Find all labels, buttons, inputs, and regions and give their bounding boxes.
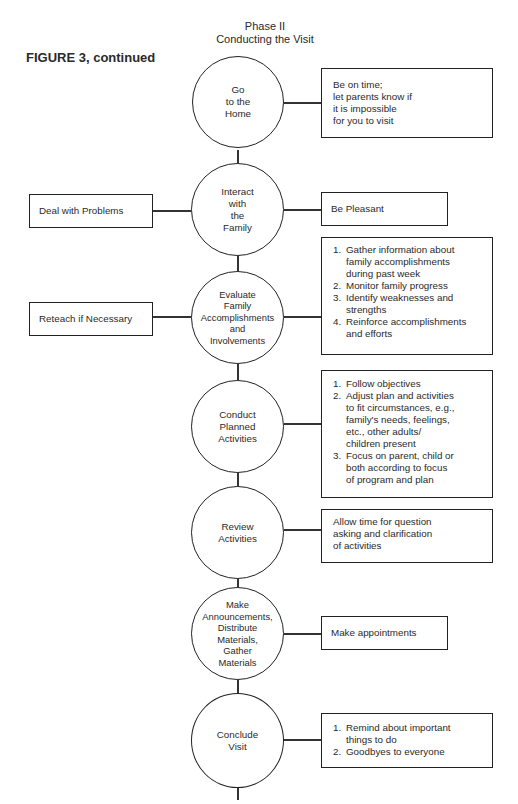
list-item: 3.Focus on parent, child or both accordi… (333, 450, 484, 486)
connector-right (284, 739, 322, 741)
connector-right (284, 209, 322, 211)
note-list: 1.Follow objectives 2.Adjust plan and ac… (333, 378, 484, 486)
phase-title: Phase II (200, 20, 330, 33)
connector-right (284, 423, 322, 425)
note-text: Make appointments (331, 627, 417, 639)
step-label: Conduct Planned Activities (218, 409, 257, 445)
note-box-list: 1.Remind about important things to do 2.… (321, 713, 493, 768)
step-label: Go to the Home (225, 84, 251, 120)
phase-heading: Phase II Conducting the Visit (200, 20, 330, 46)
step-make-announcements: Make Announcements, Distribute Materials… (191, 587, 284, 680)
step-label: Make Announcements, Distribute Materials… (202, 599, 272, 668)
list-item: 1.Follow objectives (333, 378, 484, 390)
figure-label: FIGURE 3, continued (26, 50, 155, 65)
list-item: 4.Reinforce accomplishments and efforts (333, 316, 484, 340)
note-text: Be on time; let parents know if it is im… (333, 79, 484, 127)
step-label: Interact with the Family (221, 186, 254, 234)
list-item: 2.Monitor family progress (333, 280, 484, 292)
list-item: 3.Identify weaknesses and strengths (333, 292, 484, 316)
note-box: Be on time; let parents know if it is im… (321, 68, 493, 138)
note-list: 1.Remind about important things to do 2.… (333, 722, 484, 758)
step-review-activities: Review Activities (191, 486, 284, 579)
connector-right (284, 633, 322, 635)
phase-subtitle: Conducting the Visit (200, 33, 330, 46)
note-text: Be Pleasant (331, 203, 384, 215)
left-note-box: Reteach if Necessary (29, 302, 153, 336)
note-box-list: 1.Follow objectives 2.Adjust plan and ac… (321, 370, 493, 498)
step-interact-family: Interact with the Family (191, 163, 284, 256)
note-box: Make appointments (321, 616, 448, 650)
note-list: 1.Gather information about family accomp… (333, 244, 484, 340)
connector-left (153, 210, 191, 212)
list-item: 1.Gather information about family accomp… (333, 244, 484, 280)
step-label: Evaluate Family Accomplishments and Invo… (201, 289, 274, 347)
step-label: Review Activities (218, 521, 257, 545)
note-box-list: 1.Gather information about family accomp… (321, 237, 493, 355)
step-label: Conclude Visit (217, 729, 258, 753)
left-note-text: Deal with Problems (39, 205, 123, 217)
list-item: 2.Adjust plan and activities to fit circ… (333, 390, 484, 450)
step-conclude-visit: Conclude Visit (191, 693, 284, 788)
connector-left (153, 316, 191, 318)
step-go-to-home: Go to the Home (192, 56, 284, 148)
step-conduct-activities: Conduct Planned Activities (191, 380, 284, 473)
note-text: Allow time for question asking and clari… (333, 516, 484, 552)
step-evaluate-accomplishments: Evaluate Family Accomplishments and Invo… (191, 271, 284, 364)
connector-right (284, 102, 322, 104)
connector-right (284, 316, 322, 318)
note-box: Be Pleasant (321, 192, 448, 226)
connector-right (284, 529, 322, 531)
list-item: 2.Goodbyes to everyone (333, 746, 484, 758)
list-item: 1.Remind about important things to do (333, 722, 484, 746)
note-box: Allow time for question asking and clari… (321, 509, 493, 563)
left-note-text: Reteach if Necessary (39, 313, 132, 325)
left-note-box: Deal with Problems (29, 194, 153, 228)
